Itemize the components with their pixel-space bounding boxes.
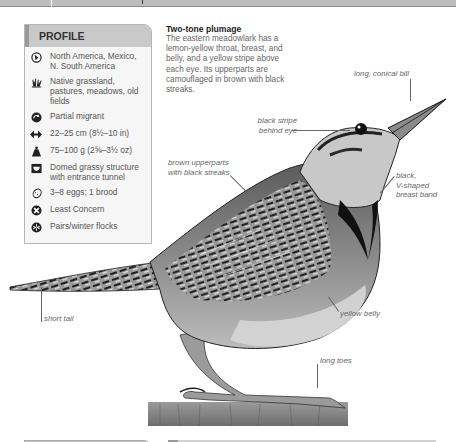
leader-toes xyxy=(317,364,318,388)
leader-bill xyxy=(410,79,411,101)
label-breast-band: black, V-shaped breast band xyxy=(396,171,437,200)
habitat-grass-icon xyxy=(30,76,42,88)
page-top-rule xyxy=(0,0,456,7)
leader-tail xyxy=(41,287,42,322)
profile-item-habitat: Native grassland, pastures, meadows, old… xyxy=(30,76,147,106)
conservation-status-icon xyxy=(30,204,42,216)
social-flock-icon xyxy=(30,221,42,233)
profile-panel: PROFILE North America, Mexico, N. South … xyxy=(24,24,152,244)
profile-item-status: Least Concern xyxy=(30,204,147,216)
profile-item-range: North America, Mexico, N. South America xyxy=(30,51,147,71)
leader-upperparts xyxy=(230,175,249,194)
profile-title: PROFILE xyxy=(25,25,151,47)
profile-item-nest: Domed grassy structure with entrance tun… xyxy=(30,162,147,182)
description-title: Two-tone plumage xyxy=(166,24,296,34)
profile-item-social: Pairs/winter flocks xyxy=(30,221,147,233)
profile-item-eggs: 3–8 eggs; 1 brood xyxy=(30,187,147,199)
profile-item-migration: Partial migrant xyxy=(30,111,147,123)
length-arrows-icon xyxy=(30,128,42,140)
label-tail: short tail xyxy=(44,314,73,324)
label-toes: long toes xyxy=(320,356,352,366)
top-rule-mark xyxy=(142,0,143,4)
wooden-post xyxy=(148,402,348,426)
egg-icon xyxy=(30,187,42,199)
leader-eye-stripe xyxy=(292,130,350,131)
description-block: Two-tone plumage The eastern meadowlark … xyxy=(166,24,296,95)
profile-item-weight: 75–100 g (2⅝–3½ oz) xyxy=(30,145,147,157)
profile-list: North America, Mexico, N. South America … xyxy=(25,47,151,233)
label-bill: long, conical bill xyxy=(354,69,409,79)
nest-icon xyxy=(30,162,42,174)
label-belly: yellow belly xyxy=(340,309,380,319)
label-eye-stripe: black stripe behind eye xyxy=(249,116,297,135)
migration-icon xyxy=(30,111,42,123)
range-globe-icon xyxy=(30,51,42,63)
weight-icon xyxy=(30,145,42,157)
leader-breast-band xyxy=(380,176,395,193)
leader-belly xyxy=(328,296,339,311)
profile-item-length: 22–25 cm (8½–10 in) xyxy=(30,128,147,140)
top-rule-divider xyxy=(51,0,52,7)
description-body: The eastern meadowlark has a lemon-yello… xyxy=(166,34,296,95)
label-upperparts: brown upperparts with black streaks xyxy=(168,158,230,177)
